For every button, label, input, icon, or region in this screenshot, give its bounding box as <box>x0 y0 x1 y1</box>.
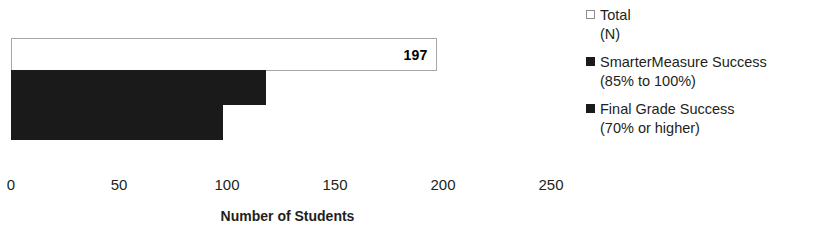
x-axis-title: Number of Students <box>0 208 575 224</box>
chart-legend: Total (N) SmarterMeasure Success (85% to… <box>586 6 830 147</box>
legend-label-line1: Total <box>600 6 631 25</box>
plot-area: 197 0 50 100 150 200 250 Number of Stude… <box>0 0 575 240</box>
x-tick-0: 0 <box>7 176 15 193</box>
x-tick-100: 100 <box>214 176 239 193</box>
bar-total-n: 197 <box>11 38 437 71</box>
legend-label-line2: (85% to 100%) <box>600 72 830 91</box>
bars-layer: 197 <box>11 38 551 140</box>
filled-square-icon <box>586 104 595 113</box>
bar-final-grade-success <box>11 105 223 140</box>
legend-item-smartermeasure-success: SmarterMeasure Success (85% to 100%) <box>586 53 830 91</box>
x-tick-200: 200 <box>430 176 455 193</box>
legend-label-line2: (N) <box>600 25 830 44</box>
bar-smartermeasure-success <box>11 70 266 105</box>
legend-label-line2: (70% or higher) <box>600 119 830 138</box>
legend-label-line1: SmarterMeasure Success <box>600 53 767 72</box>
open-square-icon <box>586 10 595 19</box>
x-tick-50: 50 <box>111 176 128 193</box>
legend-item-final-grade-success: Final Grade Success (70% or higher) <box>586 100 830 138</box>
filled-square-icon <box>586 57 595 66</box>
x-tick-150: 150 <box>322 176 347 193</box>
bar-value-label: 197 <box>404 47 428 63</box>
legend-item-total-n: Total (N) <box>586 6 830 44</box>
bar-chart: 197 0 50 100 150 200 250 Number of Stude… <box>0 0 830 240</box>
x-axis-tick-labels: 0 50 100 150 200 250 <box>0 176 575 198</box>
x-tick-250: 250 <box>538 176 563 193</box>
legend-label-line1: Final Grade Success <box>600 100 735 119</box>
